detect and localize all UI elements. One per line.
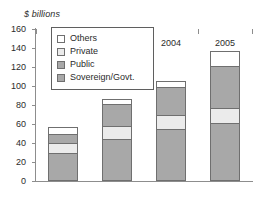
legend-label: Public bbox=[70, 60, 95, 69]
y-tick-80: 80 bbox=[32, 105, 36, 106]
y-tick-20: 20 bbox=[32, 162, 36, 163]
y-tick-label: 100 bbox=[11, 81, 26, 91]
y-tick-0: 0 bbox=[32, 181, 36, 182]
x-tick-label-2004: 2004 bbox=[161, 38, 181, 48]
legend-swatch-icon bbox=[57, 48, 65, 56]
bar-segment-sovereign-govt[interactable] bbox=[48, 153, 78, 181]
y-tick-label: 0 bbox=[21, 176, 26, 186]
bar-segment-others[interactable] bbox=[48, 127, 78, 134]
y-tick-100: 100 bbox=[32, 86, 36, 87]
y-axis-unit-label: $ billions bbox=[24, 9, 60, 19]
bar-segment-private[interactable] bbox=[102, 126, 132, 139]
bar-segment-private[interactable] bbox=[210, 108, 240, 123]
y-tick-140: 140 bbox=[32, 48, 36, 49]
x-tick bbox=[36, 29, 37, 34]
bar-segment-public[interactable] bbox=[156, 87, 186, 116]
legend-label: Sovereign/Govt. bbox=[70, 73, 135, 82]
bar-segment-public[interactable] bbox=[48, 134, 78, 144]
x-axis-line bbox=[35, 181, 253, 182]
bar-segment-others[interactable] bbox=[156, 81, 186, 87]
bar-segment-private[interactable] bbox=[48, 143, 78, 153]
legend-swatch-icon bbox=[57, 74, 65, 82]
y-tick-label: 80 bbox=[16, 100, 26, 110]
y-tick-label: 140 bbox=[11, 43, 26, 53]
bar-segment-sovereign-govt[interactable] bbox=[156, 129, 186, 181]
bar-segment-public[interactable] bbox=[210, 66, 240, 108]
legend-label: Private bbox=[70, 47, 98, 56]
legend-item-others[interactable]: Others bbox=[57, 32, 148, 45]
bar-segment-others[interactable] bbox=[102, 99, 132, 104]
y-tick-label: 20 bbox=[16, 157, 26, 167]
y-tick-label: 160 bbox=[11, 24, 26, 34]
legend-item-sovereign-govt[interactable]: Sovereign/Govt. bbox=[57, 71, 148, 84]
chart-container: $ billions 020406080100120140160 2002200… bbox=[0, 0, 269, 215]
y-tick-label: 60 bbox=[16, 119, 26, 129]
bar-segment-private[interactable] bbox=[156, 115, 186, 128]
y-tick-label: 120 bbox=[11, 62, 26, 72]
legend-swatch-icon bbox=[57, 61, 65, 69]
legend-item-public[interactable]: Public bbox=[57, 58, 148, 71]
x-tick bbox=[198, 29, 199, 34]
y-tick-label: 40 bbox=[16, 138, 26, 148]
bar-segment-public[interactable] bbox=[102, 104, 132, 126]
legend-item-private[interactable]: Private bbox=[57, 45, 148, 58]
legend-label: Others bbox=[70, 34, 97, 43]
legend: OthersPrivatePublicSovereign/Govt. bbox=[51, 27, 154, 90]
x-tick-label-2005: 2005 bbox=[215, 38, 235, 48]
bar-segment-others[interactable] bbox=[210, 51, 240, 66]
legend-swatch-icon bbox=[57, 35, 65, 43]
y-tick-60: 60 bbox=[32, 124, 36, 125]
y-tick-40: 40 bbox=[32, 143, 36, 144]
bar-segment-sovereign-govt[interactable] bbox=[102, 139, 132, 181]
bar-segment-sovereign-govt[interactable] bbox=[210, 123, 240, 181]
y-tick-120: 120 bbox=[32, 67, 36, 68]
x-tick bbox=[252, 29, 253, 34]
